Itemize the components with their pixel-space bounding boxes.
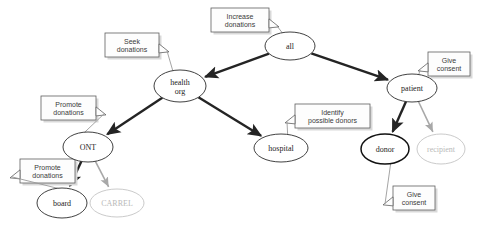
node-label-health_org: health xyxy=(170,78,190,87)
callout-text-line: Identify xyxy=(321,109,344,117)
callout-identify-possible-donors: Identifypossible donors xyxy=(285,104,373,137)
edge-patient-to-donor xyxy=(393,102,406,132)
node-recipient[interactable]: recipient xyxy=(417,134,465,164)
callout-tail xyxy=(96,107,106,116)
node-label-patient: patient xyxy=(401,84,424,93)
node-label-all: all xyxy=(286,42,295,51)
callout-tail xyxy=(383,197,393,206)
callout-text-line: possible donors xyxy=(308,117,358,125)
diagram-canvas: IncreasedonationsSeekdonationsGiveconsen… xyxy=(0,0,485,238)
node-label-recipient: recipient xyxy=(427,145,456,154)
callout-text-line: Increase xyxy=(227,13,254,20)
node-hospital[interactable]: hospital xyxy=(254,134,308,162)
callout-leader-line xyxy=(385,161,391,204)
node-label-donor: donor xyxy=(376,145,395,154)
callout-give-consent-donor: Giveconsent xyxy=(383,161,438,213)
callout-leader-line xyxy=(167,51,174,73)
callout-increase-donations: Increasedonations xyxy=(211,8,284,35)
callout-promote-donations-ont: Promotedonations xyxy=(41,96,106,135)
callout-text-line: consent xyxy=(402,199,427,206)
callout-text-line: Promote xyxy=(55,101,82,108)
node-carrel[interactable]: CARREL xyxy=(90,189,144,217)
node-label-health_org: org xyxy=(175,87,186,96)
edge-all-to-health_org xyxy=(205,54,269,77)
callout-promote-donations-board: Promotedonations xyxy=(10,159,78,191)
callout-tail xyxy=(285,115,295,124)
diagram-svg: IncreasedonationsSeekdonationsGiveconsen… xyxy=(0,0,485,238)
callout-text-line: donations xyxy=(32,172,63,179)
node-all[interactable]: all xyxy=(265,32,315,60)
callout-text-line: Seek xyxy=(124,38,140,45)
node-label-hospital: hospital xyxy=(268,144,294,153)
callout-text-line: Give xyxy=(407,191,422,198)
node-label-carrel: CARREL xyxy=(101,199,133,208)
node-ont[interactable]: ONT xyxy=(63,132,113,162)
callout-text-line: consent xyxy=(437,65,462,72)
callout-text-line: donations xyxy=(117,46,148,53)
node-board[interactable]: board xyxy=(37,188,87,218)
node-patient[interactable]: patient xyxy=(387,74,437,102)
node-label-ont: ONT xyxy=(80,143,97,152)
edge-all-to-patient xyxy=(311,53,388,79)
edges-layer xyxy=(70,53,433,186)
callout-text-line: donations xyxy=(225,21,256,28)
node-donor[interactable]: donor xyxy=(361,134,409,164)
edge-ont-to-carrel xyxy=(95,161,108,186)
node-health_org[interactable]: healthorg xyxy=(154,70,206,102)
edge-health_org-to-ont xyxy=(107,98,162,134)
edge-patient-to-recipient xyxy=(418,102,432,132)
callout-text-line: Give xyxy=(442,57,457,64)
callout-give-consent-patient: Giveconsent xyxy=(418,52,473,79)
callout-text-line: Promote xyxy=(34,164,61,171)
callout-seek-donations: Seekdonations xyxy=(105,33,174,73)
edge-health_org-to-hospital xyxy=(198,97,261,135)
node-label-board: board xyxy=(53,199,71,208)
callout-text-line: donations xyxy=(53,109,84,116)
